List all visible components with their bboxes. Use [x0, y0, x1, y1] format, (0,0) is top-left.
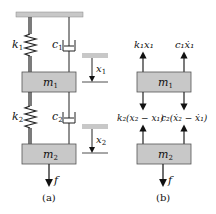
fbd-force-f-label: f	[167, 174, 174, 187]
caption-a: (a)	[42, 192, 56, 203]
panel-b: k₁x₁ c₁ẋ₁ m1 k₂(x₂ − x₁) c₂(ẋ₂ − ẋ₁) m2 …	[117, 39, 208, 203]
spring-1-icon	[25, 17, 36, 72]
damper-1-label: c1	[52, 38, 63, 52]
force-c1x1dot-label: c₁ẋ₁	[175, 39, 194, 50]
force-f-label: f	[53, 174, 60, 187]
force-k1x1-label: k₁x₁	[134, 39, 154, 50]
force-c2-label: c₂(ẋ₂ − ẋ₁)	[161, 113, 208, 123]
spring-2-label: k2	[12, 110, 23, 124]
caption-b: (b)	[156, 192, 170, 203]
x2-reference-bar	[82, 124, 108, 129]
damper-2-icon	[63, 92, 75, 144]
x2-label: x2	[96, 134, 106, 147]
panel-a: k1 c1 m1 x1 k2	[12, 12, 108, 203]
damper-1-icon	[63, 17, 75, 72]
damper-2-label: c2	[52, 110, 63, 124]
ceiling-support	[16, 12, 83, 17]
x1-label: x1	[96, 63, 106, 76]
force-k2-label: k₂(x₂ − x₁)	[117, 113, 164, 123]
two-dof-mass-spring-damper-diagram: k1 c1 m1 x1 k2	[0, 0, 216, 214]
spring-1-label: k1	[12, 38, 23, 52]
x1-reference-bar	[82, 53, 108, 58]
spring-2-icon	[25, 92, 36, 144]
